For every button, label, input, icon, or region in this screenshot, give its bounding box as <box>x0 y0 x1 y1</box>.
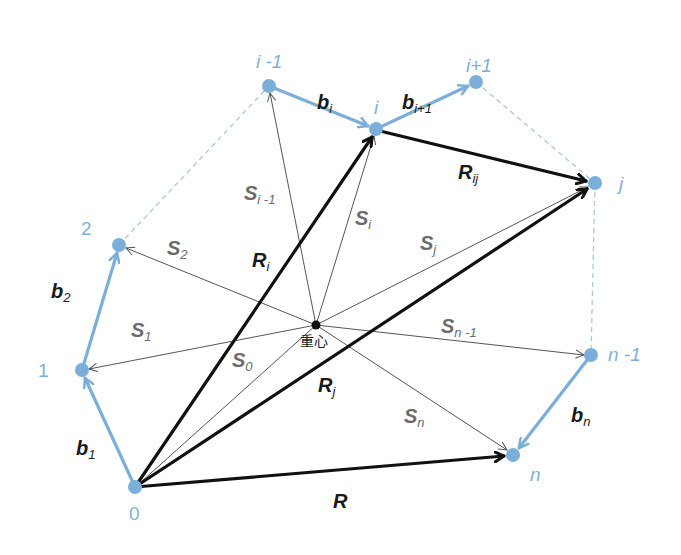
label-Rij: Rij <box>458 162 478 185</box>
label-bip1-sub: i+1 <box>414 101 432 116</box>
bond-b1 <box>85 378 135 487</box>
label-Rij-sub: ij <box>472 171 478 186</box>
label-S1-sub: 1 <box>144 329 151 344</box>
point-0 <box>128 480 142 494</box>
label-Sj: Sj <box>420 233 436 256</box>
label-b1: b1 <box>76 438 95 461</box>
label-Sn: Sn <box>404 406 425 429</box>
label-b2-base: b <box>51 280 63 302</box>
label-Sn-1: Sn -1 <box>441 316 477 339</box>
label-S0-base: S <box>232 349 245 371</box>
label-b1-sub: 1 <box>88 447 95 462</box>
vector-R <box>135 456 504 487</box>
label-Sim1-sub: i -1 <box>257 192 275 207</box>
point-label-0: 0 <box>129 504 140 523</box>
label-bi-base: b <box>317 91 329 113</box>
label-Ri-sub: i <box>266 259 269 274</box>
point-1 <box>75 363 89 377</box>
point-label-i-1: i -1 <box>256 52 282 71</box>
point-i+1 <box>469 75 483 89</box>
point-i <box>369 122 383 136</box>
point-label-j: j <box>619 174 623 193</box>
point-j <box>588 176 602 190</box>
label-bn-sub: n <box>583 414 590 429</box>
label-Ri-base: R <box>252 249 266 271</box>
point-label-2: 2 <box>81 219 92 238</box>
label-Si: Si <box>355 208 371 231</box>
label-S1-base: S <box>131 319 144 341</box>
label-R-base: R <box>333 490 347 512</box>
label-Rj-base: R <box>318 374 332 396</box>
point-n <box>506 448 520 462</box>
label-Sn-sub: n <box>417 415 424 430</box>
label-bi+1: bi+1 <box>402 92 432 115</box>
point-i-1 <box>262 79 276 93</box>
vector-Rj <box>135 189 587 487</box>
label-Sn-base: S <box>404 405 417 427</box>
label-Snm1-base: S <box>441 315 454 337</box>
label-S1: S1 <box>131 320 152 343</box>
label-bn: bn <box>571 405 590 428</box>
bond-vectors <box>82 86 591 487</box>
label-R: R <box>333 491 347 511</box>
bond-bn <box>519 355 591 448</box>
label-Sj-base: S <box>420 232 433 254</box>
vector-S1 <box>89 325 316 369</box>
bond-b2 <box>82 253 117 370</box>
label-b2: b2 <box>51 281 70 304</box>
label-Rj: Rj <box>318 375 335 398</box>
point-label-n-1: n -1 <box>608 345 641 364</box>
label-Si-base: S <box>355 207 368 229</box>
point-label-i: i <box>374 98 378 117</box>
label-Rij-base: R <box>458 161 472 183</box>
vector-Sn <box>316 325 507 450</box>
label-Snm1-sub: n -1 <box>454 325 476 340</box>
label-bn-base: b <box>571 404 583 426</box>
label-Si-1: Si -1 <box>244 183 275 206</box>
label-S0: S0 <box>232 350 253 373</box>
label-bi: bi <box>317 92 332 115</box>
gyration-vectors <box>89 93 588 482</box>
label-Rj-sub: j <box>332 384 335 399</box>
point-2 <box>112 238 126 252</box>
label-S2-base: S <box>167 237 180 259</box>
centroid-dot <box>312 321 321 330</box>
label-b2-sub: 2 <box>63 290 70 305</box>
label-S2-sub: 2 <box>180 247 187 262</box>
vector-Rij <box>380 131 586 181</box>
label-b1-base: b <box>76 437 88 459</box>
point-label-n: n <box>530 465 541 484</box>
label-Si-sub: i <box>368 217 371 232</box>
label-S0-sub: 0 <box>245 359 252 374</box>
point-label-i+1: i+1 <box>466 56 492 75</box>
dashed-link-j-to-n-1 <box>591 183 595 355</box>
vector-Si-1 <box>270 93 316 325</box>
centroid-label: 重心 <box>300 334 328 348</box>
label-bi-sub: i <box>329 101 332 116</box>
dashed-link-2-to-i-1 <box>119 86 269 245</box>
label-Ri: Ri <box>252 250 269 273</box>
label-Sim1-base: S <box>244 182 257 204</box>
point-label-1: 1 <box>38 361 49 380</box>
point-n-1 <box>584 348 598 362</box>
label-S2: S2 <box>167 238 188 261</box>
chain-vectors <box>135 131 587 487</box>
monomer-points <box>75 75 602 494</box>
label-bip1-base: b <box>402 91 414 113</box>
vector-diagram <box>0 0 681 555</box>
label-Sj-sub: j <box>433 242 436 257</box>
